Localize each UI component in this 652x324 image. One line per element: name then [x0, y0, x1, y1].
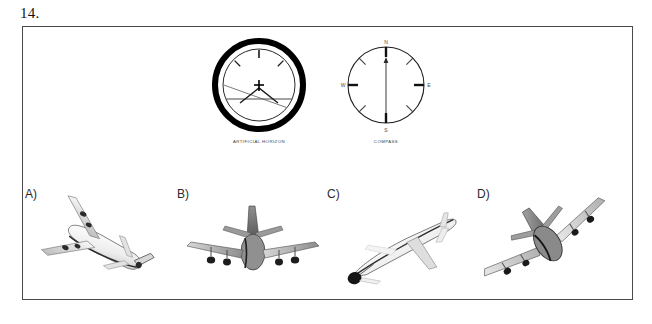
instrument-compass: N S E W COMPASS: [331, 33, 441, 144]
compass-label-west: W: [341, 82, 346, 88]
question-frame: ARTIFICIAL HORIZON: [22, 26, 633, 300]
option-c[interactable]: C): [325, 182, 477, 301]
compass-label-east: E: [427, 82, 431, 88]
option-b-aircraft: [175, 184, 327, 301]
instrument-artificial-horizon: ARTIFICIAL HORIZON: [204, 33, 314, 144]
compass-caption: COMPASS: [331, 139, 441, 144]
compass-label-north: N: [384, 39, 388, 45]
answer-options-row: A): [23, 182, 634, 301]
compass-dial: N S E W: [334, 33, 438, 137]
option-b[interactable]: B): [175, 182, 327, 301]
artificial-horizon-dial: [207, 33, 311, 137]
option-d-aircraft: [475, 184, 627, 301]
instruments-row: ARTIFICIAL HORIZON: [23, 27, 634, 167]
option-d[interactable]: D): [475, 182, 627, 301]
option-a-aircraft: [23, 184, 175, 301]
compass-label-south: S: [384, 127, 388, 133]
artificial-horizon-caption: ARTIFICIAL HORIZON: [204, 139, 314, 144]
worksheet-page: 14.: [0, 0, 652, 324]
question-number: 14.: [20, 6, 39, 21]
option-c-aircraft: [325, 184, 477, 301]
option-a[interactable]: A): [23, 182, 175, 301]
